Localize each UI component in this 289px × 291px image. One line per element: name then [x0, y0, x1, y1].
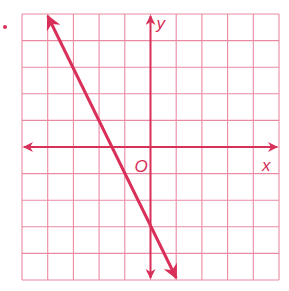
x-axis-label: x	[262, 157, 271, 174]
y-axis-label: y	[157, 15, 166, 32]
origin-label: O	[135, 158, 148, 175]
coordinate-graph: y x O	[0, 0, 289, 291]
graph-svg	[0, 0, 289, 291]
axes	[24, 16, 277, 278]
